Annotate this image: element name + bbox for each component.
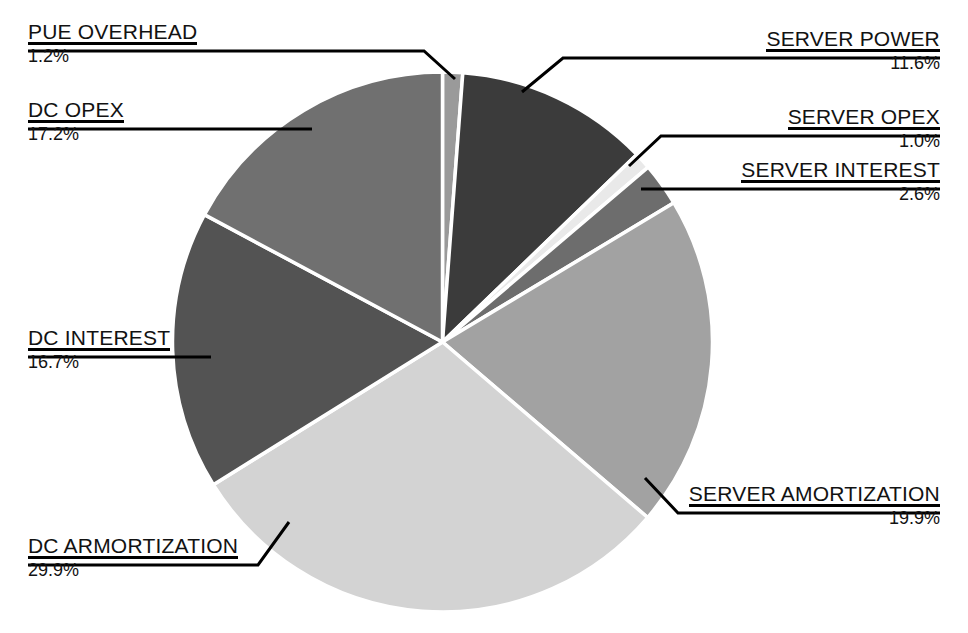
callout-title-server-opex: SERVER OPEX bbox=[788, 105, 940, 129]
callout-value-dc-opex: 17.2% bbox=[28, 122, 124, 145]
pie-slices-group bbox=[172, 72, 712, 612]
callout-title-dc-armortization: DC ARMORTIZATION bbox=[28, 534, 238, 558]
callout-title-server-amortization: SERVER AMORTIZATION bbox=[689, 482, 940, 506]
callout-underline bbox=[766, 49, 940, 52]
callout-underline bbox=[788, 127, 940, 130]
callout-title-pue-overhead: PUE OVERHEAD bbox=[28, 20, 197, 44]
callout-underline bbox=[28, 120, 124, 123]
callout-value-server-power: 11.6% bbox=[766, 51, 940, 74]
callout-value-dc-armortization: 29.9% bbox=[28, 558, 238, 581]
callout-title-dc-interest: DC INTEREST bbox=[28, 326, 170, 350]
callout-underline bbox=[741, 180, 940, 183]
callout-underline bbox=[28, 348, 170, 351]
callout-value-server-opex: 1.0% bbox=[788, 129, 940, 152]
callout-underline bbox=[28, 42, 197, 45]
callout-value-server-interest: 2.6% bbox=[741, 182, 940, 205]
callout-value-dc-interest: 16.7% bbox=[28, 350, 170, 373]
callout-underline bbox=[28, 556, 238, 559]
callout-title-server-interest: SERVER INTEREST bbox=[741, 158, 940, 182]
callout-title-server-power: SERVER POWER bbox=[766, 27, 940, 51]
callout-title-dc-opex: DC OPEX bbox=[28, 98, 124, 122]
callout-value-server-amortization: 19.9% bbox=[689, 506, 940, 529]
pie-chart-figure: PUE OVERHEAD 1.2% DC OPEX 17.2% DC INTER… bbox=[0, 0, 968, 633]
callout-underline bbox=[689, 504, 940, 507]
callout-value-pue-overhead: 1.2% bbox=[28, 44, 197, 67]
